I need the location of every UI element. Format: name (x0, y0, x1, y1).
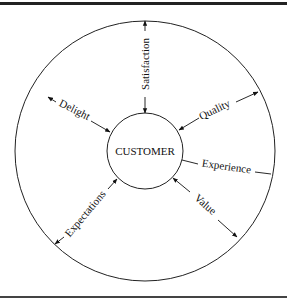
spoke-quality: Quality (179, 92, 258, 130)
spoke-label-value: Value (192, 191, 219, 217)
customer-diagram: CUSTOMER Satisfaction Quality Experience… (0, 0, 287, 301)
spoke-label-expectations: Expectations (62, 188, 108, 239)
spoke-experience: Experience (182, 157, 271, 176)
spoke-value: Value (173, 178, 237, 237)
spoke-satisfaction: Satisfaction (139, 21, 151, 113)
spoke-label-quality: Quality (197, 97, 232, 122)
spoke-label-delight: Delight (57, 97, 92, 123)
spoke-label-satisfaction: Satisfaction (139, 38, 151, 90)
spoke-label-experience: Experience (201, 157, 252, 176)
center-label: CUSTOMER (115, 145, 175, 157)
spoke-expectations: Expectations (55, 179, 117, 244)
spoke-delight: Delight (48, 97, 110, 132)
